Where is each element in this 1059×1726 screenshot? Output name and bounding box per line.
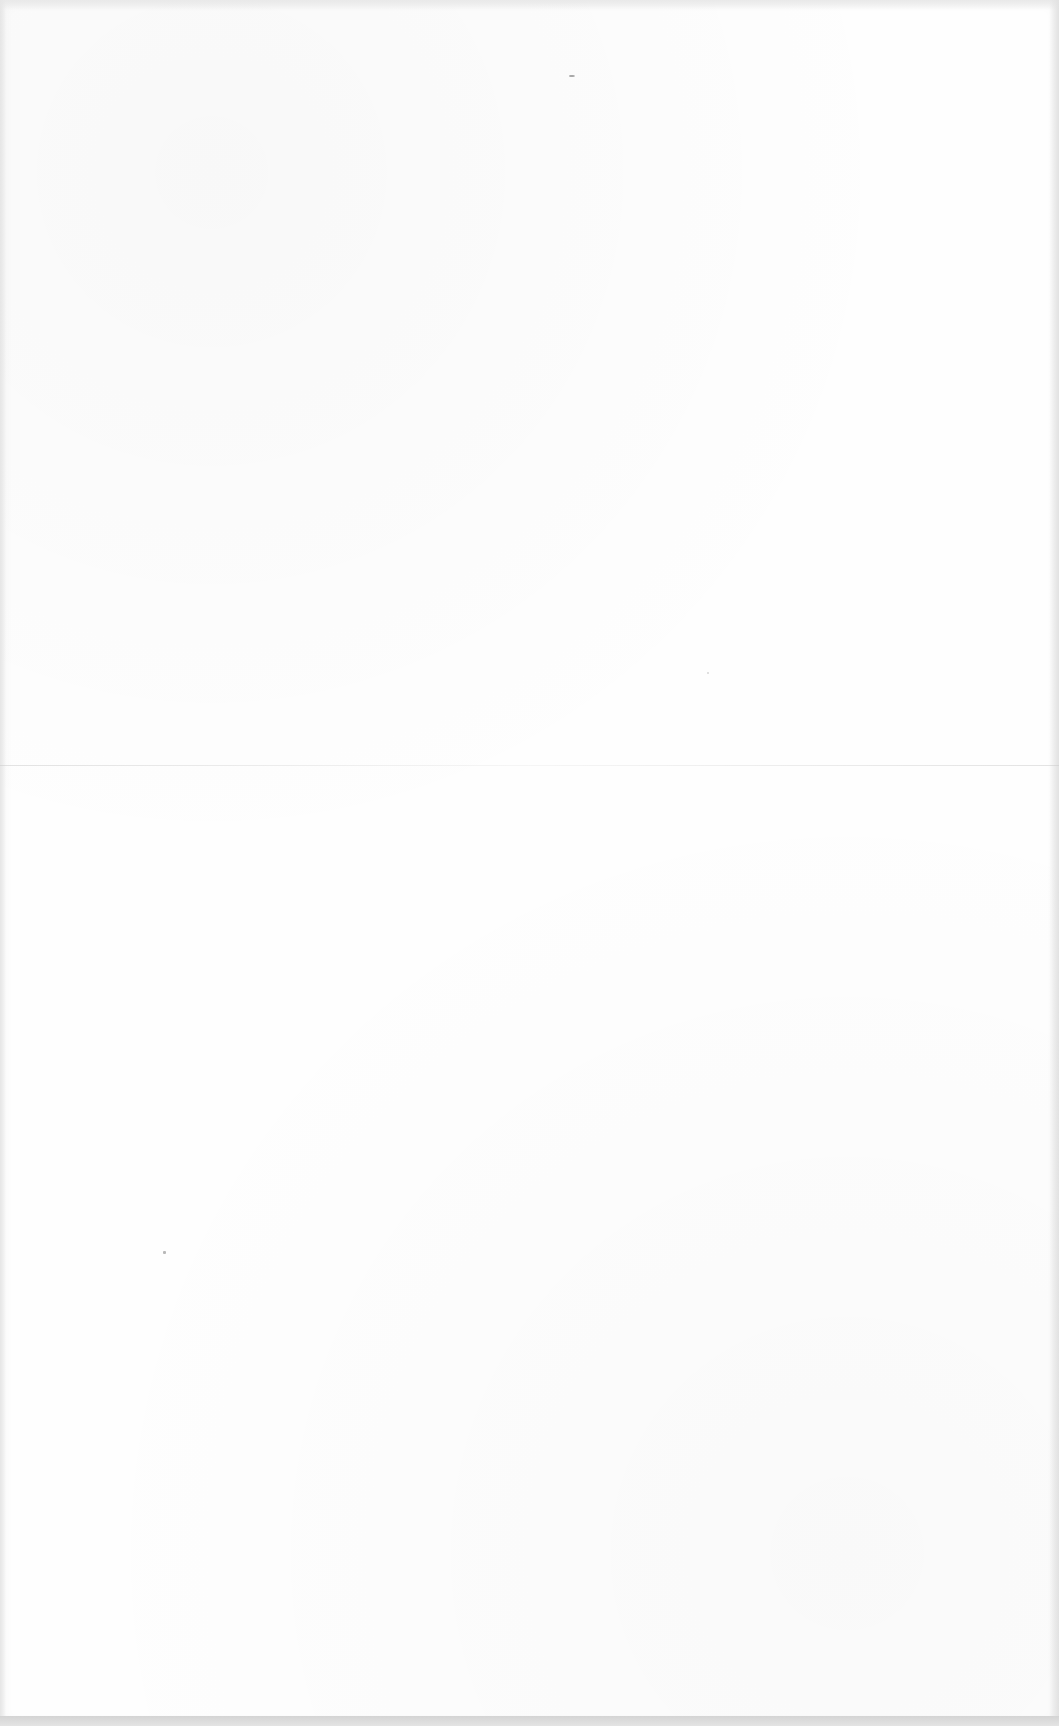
page-left-edge	[0, 0, 6, 1726]
paper-fold-line	[0, 765, 1059, 766]
scanner-bottom-edge	[0, 1716, 1059, 1726]
paper-speck	[163, 1251, 166, 1254]
paper-speck	[707, 672, 709, 674]
page-top-edge	[0, 0, 1059, 10]
blank-scanned-page	[0, 0, 1059, 1726]
page-right-edge	[1049, 0, 1059, 1726]
paper-speck	[570, 75, 575, 77]
